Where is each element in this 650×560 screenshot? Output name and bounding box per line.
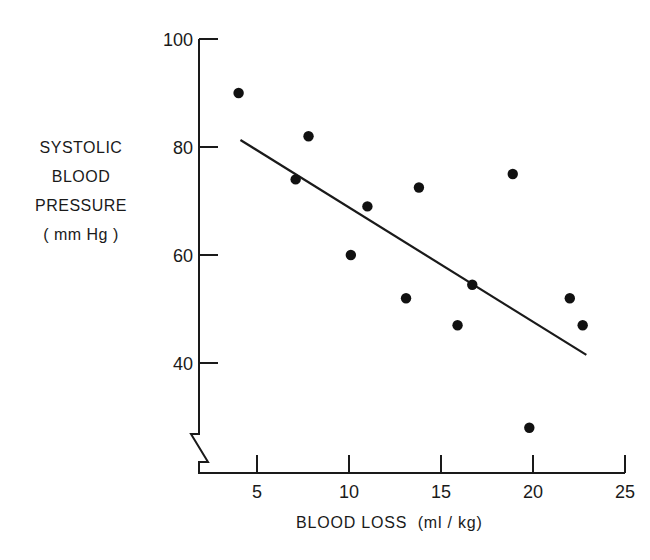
x-axis-title: BLOOD LOSS (ml / kg) (296, 514, 483, 532)
data-point (524, 423, 534, 433)
x-tick-label: 10 (339, 482, 359, 502)
axes (191, 39, 625, 473)
x-tick-label: 15 (431, 482, 451, 502)
data-point (290, 174, 300, 184)
data-point (577, 320, 587, 330)
y-axis-title-line-2: BLOOD (0, 162, 162, 191)
data-point (401, 293, 411, 303)
data-point (565, 293, 575, 303)
data-point (414, 182, 424, 192)
x-tick-label: 25 (615, 482, 635, 502)
data-points (233, 88, 587, 433)
scatter-plot: 406080100510152025 (0, 0, 650, 560)
y-axis-title-line-4: ( mm Hg ) (0, 220, 162, 249)
data-point (303, 131, 313, 141)
y-tick-label: 100 (163, 30, 193, 50)
tick-marks (199, 39, 625, 473)
x-tick-label: 5 (252, 482, 262, 502)
data-point (346, 250, 356, 260)
y-axis-title-line-3: PRESSURE (0, 191, 162, 220)
axis-lines (191, 39, 625, 473)
y-axis-title: SYSTOLIC BLOOD PRESSURE ( mm Hg ) (0, 133, 162, 249)
tick-labels: 406080100510152025 (163, 30, 635, 502)
data-point (467, 280, 477, 290)
data-point (508, 169, 518, 179)
y-axis-title-line-1: SYSTOLIC (0, 133, 162, 162)
regression-line-path (240, 140, 586, 355)
y-tick-label: 60 (173, 246, 193, 266)
x-tick-label: 20 (523, 482, 543, 502)
data-point (233, 88, 243, 98)
regression-line (240, 140, 586, 355)
data-point (452, 320, 462, 330)
y-tick-label: 40 (173, 354, 193, 374)
y-tick-label: 80 (173, 138, 193, 158)
data-point (362, 201, 372, 211)
